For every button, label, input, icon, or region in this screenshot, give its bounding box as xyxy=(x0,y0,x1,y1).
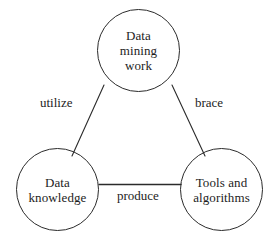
node-label-data-mining-work: Data mining work xyxy=(116,28,161,73)
node-data-mining-work: Data mining work xyxy=(97,9,180,92)
edge-label-brace: brace xyxy=(195,95,223,110)
edge-label-utilize: utilize xyxy=(40,95,73,110)
cropped-caption-sliver xyxy=(2,228,202,235)
node-data-knowledge: Data knowledge xyxy=(16,148,99,231)
node-label-data-knowledge: Data knowledge xyxy=(25,175,91,205)
edge-label-produce: produce xyxy=(117,188,159,203)
node-tools-and-algorithms: Tools and algorithms xyxy=(180,148,263,231)
node-label-tools-and-algorithms: Tools and algorithms xyxy=(189,175,254,205)
edge-line-utilize xyxy=(72,85,104,156)
